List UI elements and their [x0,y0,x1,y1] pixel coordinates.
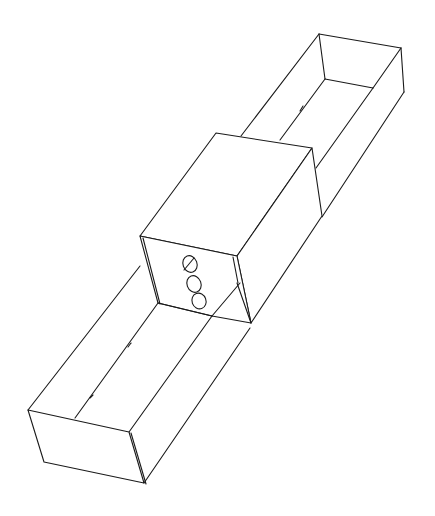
drawing-canvas [0,0,435,516]
center-sleeve [140,133,322,323]
assembly-drawing [0,0,435,516]
